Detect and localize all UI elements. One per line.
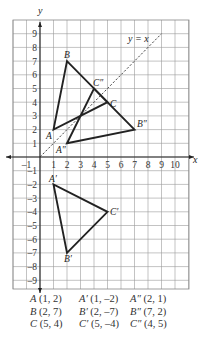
legend-entry: A′ (1, –2) [79,293,130,306]
y-tick-label: 2 [32,125,37,135]
legend-entry: C′ (5, –4) [79,318,130,331]
y-tick-label: 4 [32,98,37,108]
x-tick-label: 4 [92,160,97,170]
coordinate-plane: y x –112345678910 987654321–1–2–3–4–5–6–… [0,0,203,300]
grid-frame [13,20,189,289]
y-tick-label: 9 [32,29,37,39]
y-tick-label: 3 [32,111,37,121]
legend-row-b: B (2, 7) B′ (2, –7) B″ (7, 2) [30,306,200,319]
legend-entry: C″ (4, 5) [130,318,179,331]
x-tick-label: 2 [65,160,70,170]
x-tick-label: 9 [159,160,164,170]
x-tick-label: 5 [105,160,110,170]
y-tick-label: 6 [32,70,37,80]
vertex-label-c-double-prime: C″ [93,78,104,88]
x-tick-label: 3 [78,160,83,170]
x-tick-label: 7 [132,160,137,170]
legend-entry: C (5, 4) [30,318,79,331]
legend-entry: B′ (2, –7) [79,306,130,319]
vertex-label-a-prime: A′ [48,174,58,184]
x-axis-label: x [192,154,198,165]
y-tick-label: 7 [32,57,37,67]
vertex-label-b-double-prime: B″ [137,119,148,129]
legend-row-a: A (1, 2) A′ (1, –2) A″ (2, 1) [30,293,200,306]
vertex-label-b: B [64,50,70,60]
vertex-label-a: A [45,131,52,141]
y-axis-label: y [37,5,43,16]
legend-entry: A″ (2, 1) [130,293,179,306]
vertex-label-a-double-prime: A″ [55,145,67,155]
y-tick-label: –1 [27,166,38,176]
x-tick-label: 1 [51,160,56,170]
x-tick-label: 8 [146,160,151,170]
x-tick-labels: –112345678910 [21,160,180,170]
y-tick-label: 5 [32,84,37,94]
vertex-label-b-prime: B′ [64,254,73,264]
y-tick-label: –9 [27,276,38,286]
y-tick-label: –5 [27,221,38,231]
legend-entry: B (2, 7) [30,306,79,319]
grid-lines [13,20,189,289]
coordinates-legend: A (1, 2) A′ (1, –2) A″ (2, 1) B (2, 7) B… [30,293,200,331]
y-tick-label: 1 [32,139,37,149]
reflection-line-label: y = x [127,33,149,44]
y-tick-label: 8 [32,43,37,53]
y-tick-label: –4 [27,207,38,217]
y-axis-arrow-up-icon [38,22,42,27]
x-tick-label: 10 [170,160,180,170]
vertex-label-c-prime: C′ [110,207,119,217]
y-tick-label: –2 [27,180,38,190]
x-axis-arrow-left-icon [6,155,11,159]
legend-row-c: C (5, 4) C′ (5, –4) C″ (4, 5) [30,318,200,331]
legend-entry: A (1, 2) [30,293,79,306]
y-tick-label: –8 [27,262,38,272]
y-tick-label: –7 [27,248,38,258]
x-tick-label: 6 [119,160,124,170]
legend-entry: B″ (7, 2) [130,306,179,319]
y-tick-label: –6 [27,235,38,245]
y-tick-label: –3 [27,194,38,204]
vertex-label-c: C [110,99,117,109]
